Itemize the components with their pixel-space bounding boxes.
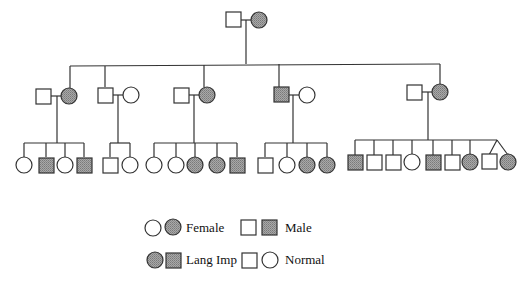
- child-normal-female: [16, 157, 32, 173]
- child-affected-male: [39, 158, 54, 173]
- child-affected-male: [348, 155, 363, 170]
- child-normal-female: [57, 157, 73, 173]
- grandmother-affected-female: [251, 12, 267, 28]
- legend-affected-male-icon: [166, 253, 181, 268]
- child-normal-male: [386, 155, 401, 170]
- legend-affected-label: Lang Imp: [186, 252, 237, 267]
- son-normal-male: [98, 88, 113, 103]
- generation-1: [226, 12, 267, 64]
- son-affected-male: [274, 87, 289, 102]
- daughter-affected-female: [61, 88, 77, 104]
- legend-normal-male-icon: [242, 253, 257, 268]
- child-normal-male: [445, 155, 460, 170]
- legend: Female Male Lang Imp Normal: [145, 219, 325, 268]
- spouse-normal-female: [123, 87, 139, 103]
- child-normal-male: [258, 158, 273, 173]
- pedigree-diagram: Female Male Lang Imp Normal: [0, 0, 532, 282]
- child-normal-female: [122, 157, 138, 173]
- child-normal-female: [279, 157, 295, 173]
- spouse-normal-male: [174, 88, 189, 103]
- legend-female-normal-icon: [145, 220, 161, 236]
- legend-male-affected-icon: [262, 220, 277, 235]
- legend-affected-female-icon: [147, 252, 163, 268]
- spouse-normal-male: [36, 89, 51, 104]
- child-normal-female: [168, 157, 184, 173]
- twin-affected-female: [500, 154, 516, 170]
- legend-male-label: Male: [285, 220, 312, 235]
- grandfather-normal-male: [226, 12, 241, 27]
- spouse-normal-female: [299, 87, 315, 103]
- child-affected-female: [319, 157, 335, 173]
- child-affected-male: [77, 158, 92, 173]
- legend-female-label: Female: [186, 220, 224, 235]
- legend-male-normal-icon: [241, 220, 256, 235]
- twin-normal-male: [482, 154, 497, 169]
- child-affected-female: [299, 157, 315, 173]
- child-normal-female: [146, 157, 162, 173]
- legend-normal-female-icon: [262, 252, 278, 268]
- sibship-gen2: [70, 64, 440, 88]
- daughter-affected-female: [432, 84, 448, 100]
- child-affected-female: [209, 157, 225, 173]
- daughter-affected-female: [199, 87, 215, 103]
- child-normal-male: [367, 155, 382, 170]
- child-affected-female: [462, 154, 478, 170]
- child-affected-male: [230, 158, 245, 173]
- generation-3: [16, 140, 516, 173]
- child-affected-male: [426, 155, 441, 170]
- legend-normal-label: Normal: [285, 252, 325, 267]
- child-normal-male: [103, 158, 118, 173]
- child-normal-female: [404, 154, 420, 170]
- child-affected-female: [187, 157, 203, 173]
- generation-2: [36, 84, 448, 143]
- legend-female-affected-icon: [165, 219, 181, 235]
- spouse-normal-male: [407, 85, 422, 100]
